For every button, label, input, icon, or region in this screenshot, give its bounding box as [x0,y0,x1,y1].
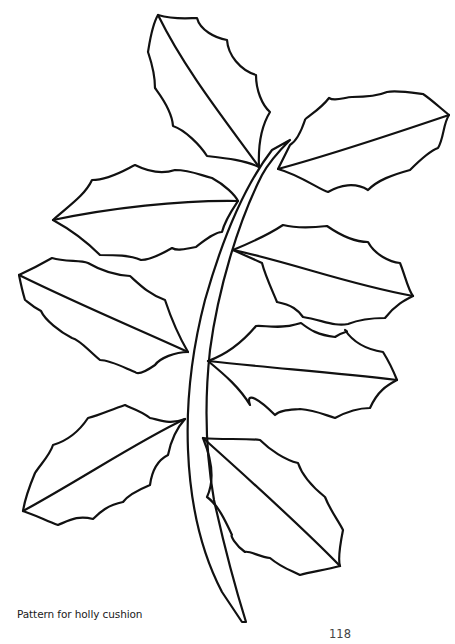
page-number: 118 [329,627,351,641]
holly-leaf-left-lower [19,258,188,373]
holly-leaf-left-mid [53,165,238,260]
holly-leaf-upper-right [278,91,449,192]
holly-leaf-right-bottom-vein [203,438,340,566]
holly-leaf-top [148,15,270,167]
holly-leaf-right-lower-vein [208,361,397,380]
book-page: Pattern for holly cushion 118 [0,0,455,644]
holly-leaf-left-lower-vein [19,275,188,352]
holly-leaf-top-vein [158,15,259,167]
holly-leaf-left-bottom-vein [23,419,185,511]
holly-stem [188,140,290,622]
figure-caption: Pattern for holly cushion [17,608,142,620]
holly-pattern-illustration [0,0,455,644]
holly-leaf-left-mid-vein [53,201,238,220]
holly-leaf-right-bottom [203,438,343,575]
holly-leaf-right-mid-vein [233,250,413,296]
